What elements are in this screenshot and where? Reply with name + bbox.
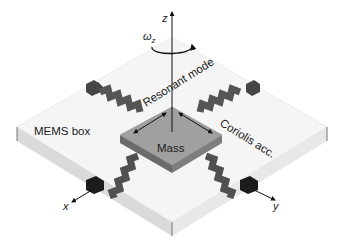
- z-axis-label: z: [161, 12, 168, 24]
- mems-box-label: MEMS box: [34, 125, 90, 137]
- mems-gyroscope-diagram: z ωz x y Resonant mode Coriolis acc. Mas…: [0, 0, 343, 252]
- y-axis-label: y: [272, 200, 280, 212]
- x-axis-label: x: [62, 200, 69, 212]
- mass-label: Mass: [157, 142, 185, 154]
- omega-label: ωz: [143, 30, 156, 45]
- y-axis: [254, 190, 275, 200]
- x-axis: [72, 190, 92, 202]
